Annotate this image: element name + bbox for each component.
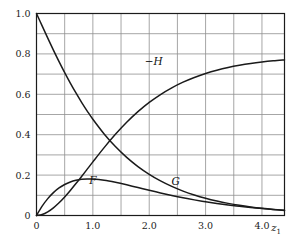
x-tick-label: 3.0 — [198, 220, 213, 231]
x-tick-label: 4.0 — [254, 220, 269, 231]
y-tick-label: 0.6 — [15, 89, 30, 100]
rotating-disk-boundary-layer-chart: 01.02.03.04.0 00.20.40.60.81.0 −HFG z1 — [0, 0, 299, 244]
y-tick-label: 1.0 — [15, 8, 30, 19]
x-tick-label: 2.0 — [142, 220, 157, 231]
curve-label-f: F — [88, 174, 97, 186]
x-axis-title-subscript: 1 — [276, 228, 280, 236]
x-tick-label: 0 — [33, 220, 39, 231]
x-tick-label: 1.0 — [85, 220, 100, 231]
curve-label-minus-h: −H — [145, 55, 164, 67]
y-tick-label: 0.2 — [15, 170, 30, 181]
y-tick-label: 0.8 — [15, 48, 30, 59]
y-tick-label: 0.4 — [15, 129, 30, 140]
y-tick-label: 0 — [24, 210, 30, 221]
chart-figure: 01.02.03.04.0 00.20.40.60.81.0 −HFG z1 — [0, 0, 299, 244]
curve-label-g: G — [172, 175, 180, 187]
